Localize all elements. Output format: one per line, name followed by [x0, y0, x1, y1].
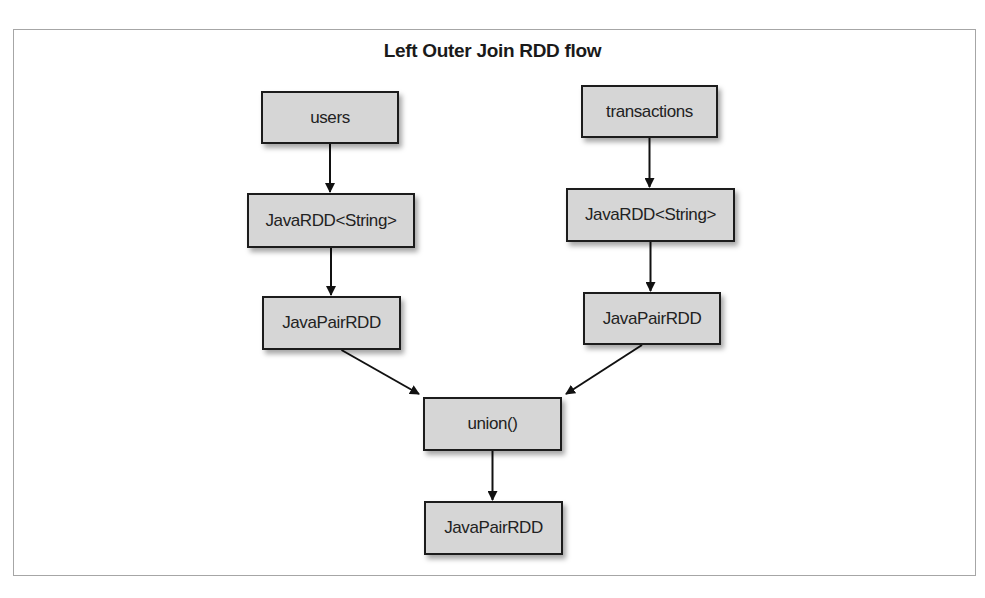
node-users-pairrdd: JavaPairRDD — [262, 296, 401, 350]
edge-arrow-users_pairrdd-to-union — [342, 350, 420, 394]
node-users: users — [261, 91, 399, 144]
node-label: JavaPairRDD — [282, 313, 381, 333]
node-result-pairrdd: JavaPairRDD — [424, 501, 563, 555]
node-label: JavaPairRDD — [444, 518, 543, 538]
node-label: users — [310, 108, 350, 128]
node-label: JavaRDD<String> — [585, 205, 716, 225]
node-label: transactions — [606, 102, 693, 122]
node-union: union() — [423, 397, 562, 451]
node-transactions-pairrdd: JavaPairRDD — [583, 292, 721, 345]
node-label: JavaRDD<String> — [265, 211, 396, 231]
node-users-javardd: JavaRDD<String> — [247, 193, 415, 248]
node-label: union() — [467, 414, 517, 434]
node-transactions-javardd: JavaRDD<String> — [566, 188, 735, 242]
edge-arrow-transactions_pairrdd-to-union — [566, 345, 642, 394]
node-label: JavaPairRDD — [603, 309, 702, 329]
node-transactions: transactions — [581, 85, 718, 138]
